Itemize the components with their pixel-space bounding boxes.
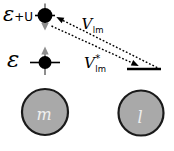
diagram-canvas: ε+U ε Vlm V*lm m l xyxy=(0,0,174,151)
plus-u-text: +U xyxy=(14,10,33,24)
lower-level-label: ε xyxy=(7,46,19,72)
arrowhead-down-right-icon xyxy=(131,60,139,66)
vlm-label: Vlm xyxy=(82,15,104,35)
site-l-text: l xyxy=(137,108,142,127)
arrowhead-up-left-icon xyxy=(56,17,64,23)
spin-down-arrow-icon xyxy=(41,23,48,31)
v-subscript: lm xyxy=(93,25,104,35)
vlm-star-label: V*lm xyxy=(84,53,106,74)
lower-electron-dot xyxy=(39,56,52,69)
site-l-label: l xyxy=(137,108,142,127)
spin-up-arrow-icon xyxy=(41,47,48,55)
v-star-superscript: * xyxy=(95,53,100,64)
v-star-subscript: lm xyxy=(95,64,106,74)
site-m-text: m xyxy=(36,105,51,124)
epsilon-plus-u-symbol: ε xyxy=(3,2,14,26)
site-m-label: m xyxy=(36,105,51,124)
epsilon-symbol: ε xyxy=(7,46,19,72)
upper-electron-dot xyxy=(38,8,53,23)
hopping-dashed-line-to-impurity xyxy=(63,21,158,69)
upper-level-label: ε+U xyxy=(3,2,33,26)
impurity-hybridization-diagram: ε+U ε Vlm V*lm m l xyxy=(0,0,174,151)
